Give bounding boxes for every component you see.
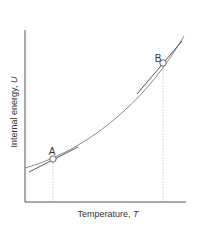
energy-temperature-diagram: A B Temperature, T Internal energy, U [0, 0, 197, 227]
tangent-line-b [137, 41, 182, 94]
point-b-label: B [155, 53, 162, 64]
x-axis-label: Temperature, T [77, 209, 140, 219]
y-axis-label: Internal energy, U [9, 76, 19, 147]
point-a-label: A [49, 146, 56, 157]
